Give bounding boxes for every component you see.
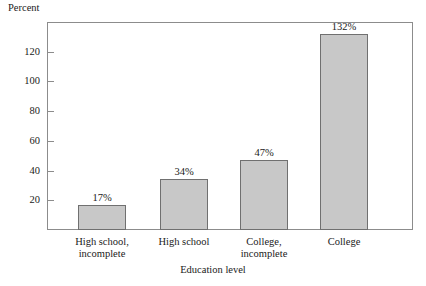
bar	[160, 179, 208, 230]
y-axis-tick	[47, 141, 54, 142]
y-axis-title: Percent	[8, 2, 40, 14]
bar	[320, 34, 368, 230]
y-axis-tick-label: 100	[0, 76, 40, 87]
chart-page: Percent 20406080100120 17%High school, i…	[0, 0, 426, 286]
bar-value-label: 132%	[304, 21, 384, 32]
y-axis-tick	[47, 52, 54, 53]
y-axis-tick-label: 20	[0, 195, 40, 206]
y-axis-tick-label: 80	[0, 106, 40, 117]
y-axis-tick	[47, 171, 54, 172]
bar-value-label: 34%	[144, 166, 224, 177]
y-axis-tick	[47, 200, 54, 201]
y-axis-tick	[47, 81, 54, 82]
y-axis-tick	[47, 111, 54, 112]
y-axis-tick-label: 40	[0, 166, 40, 177]
bar	[240, 160, 288, 230]
x-axis-category-label: College	[294, 236, 394, 248]
y-axis-tick-label: 60	[0, 136, 40, 147]
bar-value-label: 17%	[62, 192, 142, 203]
x-axis-title: Education level	[0, 264, 426, 276]
bar-value-label: 47%	[224, 147, 304, 158]
y-axis-tick-label: 120	[0, 47, 40, 58]
bar	[78, 205, 126, 230]
